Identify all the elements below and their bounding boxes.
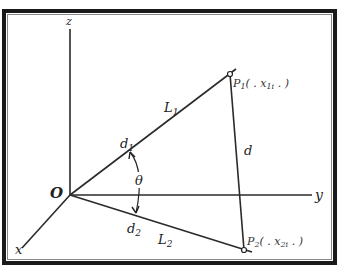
d1-label: d1	[120, 136, 134, 153]
theta-label: θ	[135, 173, 143, 188]
distance-d-line	[230, 74, 244, 250]
frame	[4, 11, 335, 263]
origin-label: O	[50, 184, 63, 202]
point-p2-label: P2( . x2i . )	[246, 235, 303, 249]
distance-d-label: d	[244, 143, 252, 158]
point-p2-marker	[242, 248, 247, 253]
l2-label: L2	[157, 232, 173, 249]
x-axis	[22, 195, 70, 248]
arrowhead-down-icon	[132, 206, 139, 213]
point-p1-marker	[228, 72, 233, 77]
y-axis-label: y	[314, 187, 324, 203]
diagram-canvas: z y x O L1 L2 d P1( . x1i . ) P2( . x2i …	[0, 0, 339, 268]
d2-label: d2	[127, 221, 141, 238]
point-p1-label: P1( . x1i . )	[232, 77, 289, 91]
l1-label: L1	[163, 100, 178, 117]
axes	[22, 29, 312, 248]
line-l1	[70, 69, 236, 195]
x-axis-label: x	[15, 242, 23, 257]
z-axis-label: z	[65, 15, 72, 28]
frame-inner	[8, 15, 332, 260]
frame-outer	[4, 11, 335, 263]
